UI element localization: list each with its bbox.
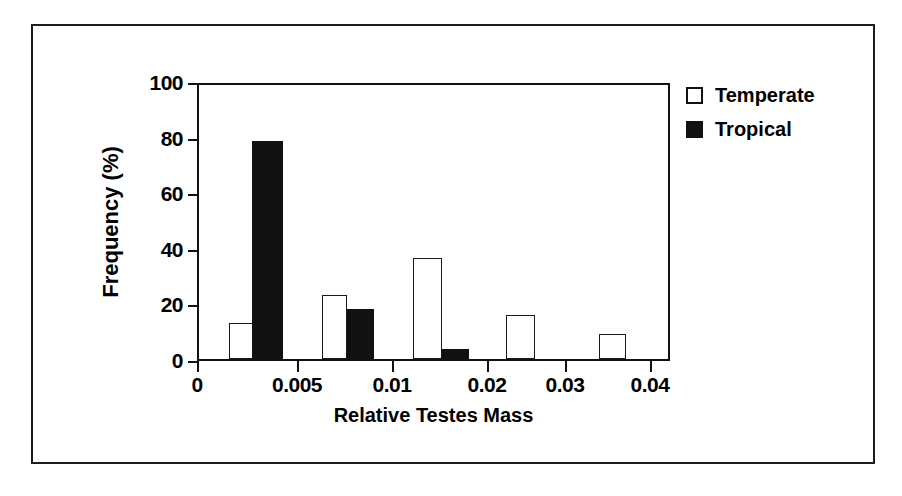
bar-temperate-2 [322,295,347,359]
bar-tropical-1 [252,141,283,359]
y-axis-label-container: Frequency (%) [96,83,126,361]
bars-layer [199,85,668,359]
bar-temperate-4 [413,258,442,359]
legend-item-tropical: Tropical [686,114,815,144]
y-tick-label-0: 0 [172,349,183,373]
x-tick-mark-0 [197,361,199,372]
x-tick-label-0: 0 [191,373,202,397]
x-tick-label-0.005: 0.005 [272,373,322,397]
y-tick-label-100: 100 [149,71,183,95]
legend-item-temperate: Temperate [686,80,815,110]
y-tick-label-60: 60 [161,182,183,206]
plot-area [197,83,670,361]
x-tick-mark-0.04 [650,361,652,372]
bar-temperate-7 [599,334,626,359]
y-tick-mark-80 [188,139,197,141]
open-square-icon [686,87,703,104]
y-axis-label: Frequency (%) [98,146,124,298]
x-tick-mark-0.01 [392,361,394,372]
x-tick-label-0.02: 0.02 [468,373,507,397]
y-tick-mark-100 [188,83,197,85]
y-tick-label-80: 80 [161,127,183,151]
x-tick-mark-0.005 [297,361,299,372]
x-axis-ticks: 00.0050.010.020.030.04 [197,361,670,405]
chart-legend: TemperateTropical [686,80,815,148]
bar-tropical-3 [347,309,374,359]
filled-square-icon [686,121,703,138]
legend-label-tropical: Tropical [715,118,792,141]
y-tick-mark-60 [188,194,197,196]
y-tick-mark-40 [188,250,197,252]
legend-label-temperate: Temperate [715,84,815,107]
x-axis-label: Relative Testes Mass [197,404,670,427]
bar-temperate-6 [506,315,535,359]
y-tick-label-40: 40 [161,238,183,262]
figure-canvas: Frequency (%) 020406080100 00.0050.010.0… [0,0,902,496]
bar-tropical-5 [442,349,469,359]
y-tick-label-20: 20 [161,293,183,317]
x-tick-label-0.04: 0.04 [631,373,670,397]
y-tick-mark-0 [188,361,197,363]
x-tick-label-0.03: 0.03 [546,373,585,397]
x-tick-mark-0.02 [487,361,489,372]
x-tick-mark-0.03 [565,361,567,372]
x-tick-label-0.01: 0.01 [373,373,412,397]
y-tick-mark-20 [188,305,197,307]
